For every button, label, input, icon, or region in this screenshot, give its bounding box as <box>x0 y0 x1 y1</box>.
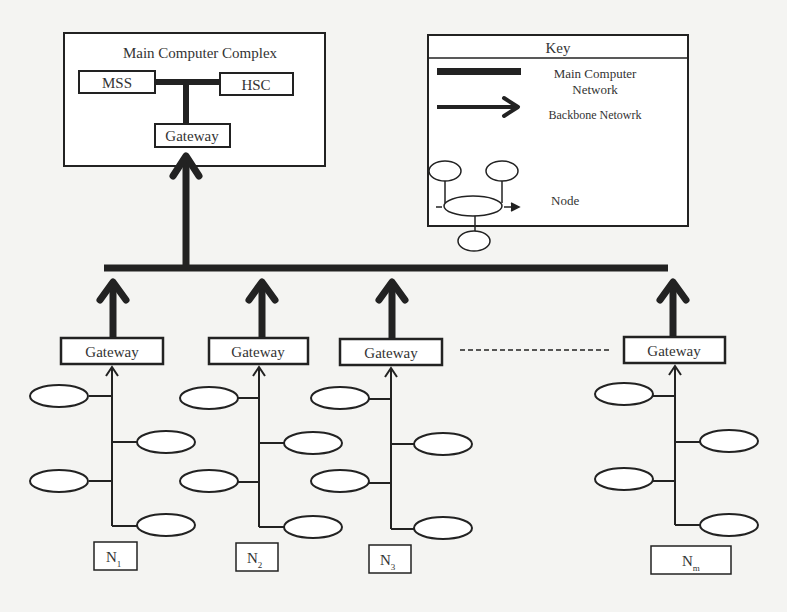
main-gateway-label: Gateway <box>165 128 219 144</box>
main-computer-complex: Main Computer Complex MSS HSC Gateway <box>64 33 325 166</box>
svg-text:Gateway: Gateway <box>647 343 701 359</box>
mss-label: MSS <box>102 75 132 91</box>
svg-text:Backbone Netowrk: Backbone Netowrk <box>549 108 642 122</box>
svg-text:Network: Network <box>572 82 618 97</box>
svg-text:Node: Node <box>551 193 579 208</box>
network-diagram: Main Computer Complex MSS HSC Gateway Ke… <box>0 0 787 612</box>
key-title: Key <box>546 40 571 56</box>
svg-text:Main Computer: Main Computer <box>554 66 637 81</box>
subnetwork-nm: Gateway Nm <box>595 282 758 574</box>
svg-text:Gateway: Gateway <box>231 344 285 360</box>
key-thick-bar-icon <box>437 68 521 75</box>
backbone-arrow-main <box>173 156 199 268</box>
subnetwork-n1: Gateway N1 <box>30 282 195 570</box>
key-legend: Key Main Computer Network Backbone Netow… <box>428 35 688 251</box>
main-complex-title: Main Computer Complex <box>123 45 278 61</box>
hsc-label: HSC <box>241 77 270 93</box>
subnetwork-n2: Gateway N2 <box>180 282 342 571</box>
svg-text:Gateway: Gateway <box>364 345 418 361</box>
svg-text:Gateway: Gateway <box>85 344 139 360</box>
